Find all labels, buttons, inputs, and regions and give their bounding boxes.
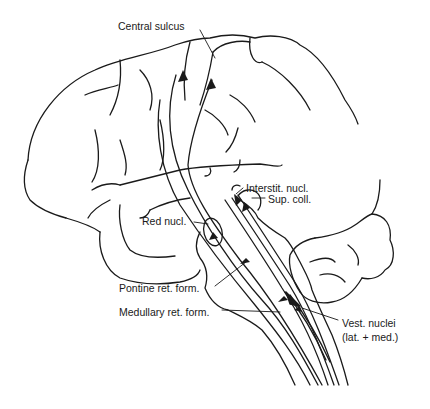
label-vest-nuclei: Vest. nuclei xyxy=(342,317,396,329)
label-red-nucl: Red nucl. xyxy=(142,215,186,227)
leader-central-sulcus xyxy=(200,30,215,58)
label-sup-coll: Sup. coll. xyxy=(268,193,311,205)
label-medullary-ret-form: Medullary ret. form. xyxy=(119,306,209,318)
label-pontine-ret-form: Pontine ret. form. xyxy=(119,282,200,294)
brainstem-outline xyxy=(197,232,295,385)
label-vest-nuclei-sub: (lat. + med.) xyxy=(342,331,398,343)
label-central-sulcus: Central sulcus xyxy=(118,20,185,32)
cerebrum-outline xyxy=(28,35,358,160)
brain-pathways-diagram: Central sulcus Interstit. nucl. Sup. col… xyxy=(0,0,430,409)
brain-illustration xyxy=(0,0,430,409)
leader-interstit-nucl xyxy=(236,188,243,194)
